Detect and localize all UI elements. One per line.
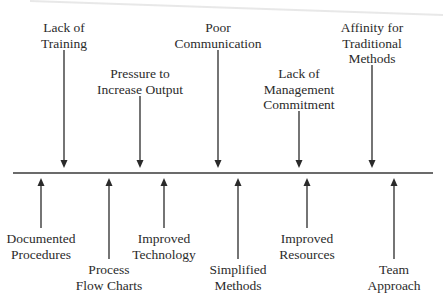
label-line: Lack of [263, 66, 334, 82]
label-line: Documented [7, 231, 76, 247]
label-line: Lack of [41, 20, 87, 36]
arrow-down-icon [137, 160, 144, 168]
label-line: Pressure to [97, 66, 183, 82]
driving-label-improved-technology: ImprovedTechnology [132, 231, 196, 262]
label-line: Resources [279, 247, 334, 263]
label-line: Methods [210, 278, 267, 294]
label-line: Approach [367, 278, 420, 294]
label-line: Procedures [7, 247, 76, 263]
arrow-down-icon [61, 160, 68, 168]
label-line: Poor [175, 20, 262, 36]
label-line: Communication [175, 36, 262, 52]
label-line: Technology [132, 247, 196, 263]
label-line: Methods [341, 51, 403, 67]
label-line: Improved [132, 231, 196, 247]
force-arrows [38, 50, 398, 259]
label-line: Commitment [263, 97, 334, 113]
label-line: Management [263, 82, 334, 98]
restraining-label-pressure-to-increase-output: Pressure toIncrease Output [97, 66, 183, 97]
arrow-down-icon [369, 160, 376, 168]
restraining-label-lack-of-management-commitment: Lack ofManagementCommitment [263, 66, 334, 113]
arrow-up-icon [235, 178, 242, 186]
driving-label-documented-procedures: DocumentedProcedures [7, 231, 76, 262]
label-line: Improved [279, 231, 334, 247]
driving-label-team-approach: TeamApproach [367, 262, 420, 293]
label-line: Increase Output [97, 82, 183, 98]
label-line: Flow Charts [76, 278, 142, 294]
force-field-diagram: Lack ofTrainingPressure toIncrease Outpu… [0, 0, 443, 302]
label-line: Process [76, 262, 142, 278]
driving-label-process-flow-charts: ProcessFlow Charts [76, 262, 142, 293]
label-line: Simplified [210, 262, 267, 278]
restraining-label-poor-communication: PoorCommunication [175, 20, 262, 51]
arrow-up-icon [106, 178, 113, 186]
restraining-label-lack-of-training: Lack ofTraining [41, 20, 87, 51]
arrow-up-icon [161, 178, 168, 186]
arrow-up-icon [38, 178, 45, 186]
driving-label-simplified-methods: SimplifiedMethods [210, 262, 267, 293]
label-line: Training [41, 36, 87, 52]
label-line: Traditional [341, 36, 403, 52]
label-line: Affinity for [341, 20, 403, 36]
restraining-label-affinity-for-traditional-methods: Affinity forTraditionalMethods [341, 20, 403, 67]
label-line: Team [367, 262, 420, 278]
driving-label-improved-resources: ImprovedResources [279, 231, 334, 262]
arrow-down-icon [215, 160, 222, 168]
arrow-up-icon [391, 178, 398, 186]
arrow-up-icon [304, 178, 311, 186]
arrow-down-icon [296, 160, 303, 168]
